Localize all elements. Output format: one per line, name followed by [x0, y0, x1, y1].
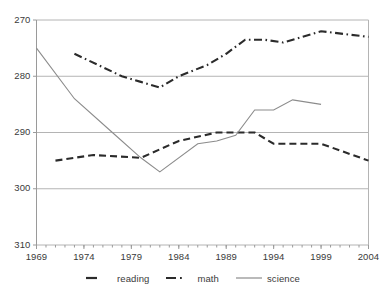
- dashed-line-swatch: [86, 273, 112, 283]
- plot-area: [0, 0, 386, 292]
- x-tick-label-1974: 1974: [64, 251, 104, 262]
- legend-item-science[interactable]: science: [236, 273, 300, 284]
- legend-item-reading[interactable]: reading: [86, 273, 149, 284]
- y-tick-label-280: 300: [5, 182, 31, 193]
- legend-label-reading: reading: [117, 273, 149, 284]
- series-line-reading: [55, 133, 368, 161]
- x-tick-label-1994: 1994: [254, 251, 294, 262]
- dash-dot-line-swatch: [166, 273, 192, 283]
- solid-line-swatch: [236, 273, 262, 283]
- series-lines: [37, 31, 369, 172]
- chart-legend: readingmathscience: [0, 268, 386, 288]
- legend-label-science: science: [267, 273, 300, 284]
- legend-label-math: math: [197, 273, 219, 284]
- y-tick-label-310: 270: [5, 14, 31, 25]
- series-line-math: [74, 31, 368, 87]
- gridlines: [37, 20, 369, 245]
- x-tick-label-1969: 1969: [17, 251, 57, 262]
- series-line-science: [37, 48, 322, 172]
- y-tick-label-300: 280: [5, 70, 31, 81]
- x-tick-label-1984: 1984: [159, 251, 199, 262]
- x-tick-label-2004: 2004: [349, 251, 386, 262]
- y-axis-major-ticks: [33, 20, 37, 245]
- x-tick-label-1989: 1989: [206, 251, 246, 262]
- y-tick-label-270: 310: [5, 239, 31, 250]
- legend-item-math[interactable]: math: [166, 273, 219, 284]
- x-tick-label-1999: 1999: [301, 251, 341, 262]
- y-tick-label-290: 290: [5, 126, 31, 137]
- x-axis-major-ticks: [37, 245, 369, 249]
- line-chart: 310300290280270 196919741979198419891994…: [0, 0, 386, 292]
- x-tick-label-1979: 1979: [111, 251, 151, 262]
